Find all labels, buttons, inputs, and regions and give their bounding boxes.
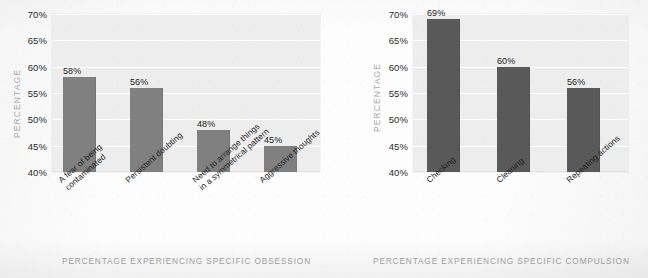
bar[interactable]: 60% [497,67,530,172]
bar-chart-compulsion: PERCENTAGE 70%65%60%55%50%45%40% 69%60%5… [330,0,648,278]
bar-value-label: 56% [130,77,148,87]
y-axis-title-obsession: PERCENTAGE [12,69,22,138]
y-axis-tick-label: 40% [28,167,47,178]
y-axis-tick-label: 60% [28,61,47,72]
bar-value-label: 69% [427,8,445,18]
y-axis-tick-label: 55% [28,88,47,99]
bar-value-label: 48% [197,119,215,129]
bar-slot[interactable]: 69% [427,19,460,172]
bar-value-label: 58% [63,66,81,76]
bar-value-label: 60% [497,56,515,66]
y-axis-tick-label: 70% [28,9,47,20]
bar-value-label: 56% [567,77,585,87]
y-axis-tick-label: 65% [389,35,408,46]
y-axis-tick-label: 65% [28,35,47,46]
bar-slot[interactable]: 60% [497,67,530,172]
y-axis-tick-label: 50% [28,114,47,125]
y-axis-tick-label: 55% [389,88,408,99]
y-axis-tick-label: 40% [389,167,408,178]
scanned-page: PERCENTAGE 70%65%60%55%50%45%40% 58%56%4… [0,0,648,278]
y-axis-tick-label: 45% [28,140,47,151]
y-axis-tick-label: 45% [389,140,408,151]
bar-chart-obsession: PERCENTAGE 70%65%60%55%50%45%40% 58%56%4… [0,0,330,278]
y-axis-tick-label: 50% [389,114,408,125]
chart-caption-compulsion: PERCENTAGE EXPERIENCING SPECIFIC COMPULS… [373,256,630,266]
y-axis-tick-label: 70% [389,9,408,20]
y-axis-tick-label: 60% [389,61,408,72]
y-axis-title-compulsion: PERCENTAGE [372,63,382,132]
bar[interactable]: 69% [427,19,460,172]
chart-caption-obsession: PERCENTAGE EXPERIENCING SPECIFIC OBSESSI… [62,256,311,266]
